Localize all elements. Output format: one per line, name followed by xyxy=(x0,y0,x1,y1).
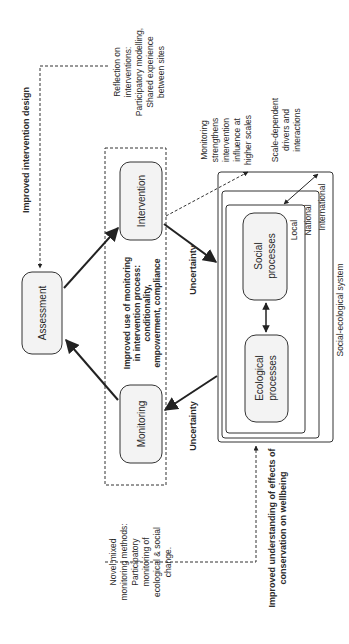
svg-text:monitoring methods:: monitoring methods: xyxy=(119,523,129,600)
svg-text:higher scales: higher scales xyxy=(243,115,253,165)
svg-text:empowerment, compliance: empowerment, compliance xyxy=(152,258,162,367)
monitoring-strengthens-text: Monitoring strengthens intervention infl… xyxy=(199,115,253,165)
svg-text:monitoring of: monitoring of xyxy=(141,537,151,587)
assessment-label: Assessment xyxy=(37,286,48,341)
svg-text:change.: change. xyxy=(163,547,173,577)
svg-text:strengthens: strengthens xyxy=(210,118,220,162)
svg-text:intervention: intervention xyxy=(221,118,231,162)
national-label: National xyxy=(303,204,313,235)
svg-text:Shared experience: Shared experience xyxy=(145,36,155,108)
svg-text:Participatory: Participatory xyxy=(130,538,140,586)
assessment-node: Assessment xyxy=(22,272,62,354)
system-label: Social-ecological system xyxy=(335,263,345,356)
ecological-processes-node: Ecological processes xyxy=(245,335,288,422)
svg-text:drivers and: drivers and xyxy=(281,109,291,151)
novel-methods-text: Novel mixed monitoring methods: Particip… xyxy=(108,523,173,600)
intervention-node: Intervention xyxy=(120,162,162,240)
reflection-text: Reflection on interventions: Participato… xyxy=(112,28,166,116)
international-label: International xyxy=(317,184,327,231)
social-processes-node: Social processes xyxy=(243,213,287,300)
arrow-monitoring-to-assessment xyxy=(66,340,118,400)
reflection-feedback-line xyxy=(40,66,108,268)
svg-text:processes: processes xyxy=(266,233,277,279)
svg-text:influence at: influence at xyxy=(232,118,242,162)
svg-text:interventions:: interventions: xyxy=(123,47,133,98)
svg-text:processes: processes xyxy=(267,355,278,401)
improved-monitoring-use-text: Improved use of monitoring in interventi… xyxy=(122,257,162,369)
conservation-monitoring-diagram: Assessment Intervention Monitoring Impro… xyxy=(0,0,349,644)
svg-text:interactions: interactions xyxy=(292,108,302,151)
improved-understanding-text: Improved understanding of effects of con… xyxy=(267,447,288,607)
svg-text:Monitoring: Monitoring xyxy=(199,120,209,160)
monitoring-label: Monitoring xyxy=(136,401,147,448)
intervention-label: Intervention xyxy=(136,175,147,227)
monitoring-node: Monitoring xyxy=(120,385,162,463)
svg-text:conservation on wellbeing: conservation on wellbeing xyxy=(278,471,288,584)
svg-text:Reflection on: Reflection on xyxy=(112,47,122,97)
svg-text:Scale-dependent: Scale-dependent xyxy=(270,97,280,162)
svg-text:conditionality,: conditionality, xyxy=(142,285,152,342)
svg-text:Participatory modelling,: Participatory modelling, xyxy=(134,28,144,116)
improved-intervention-design-label: Improved intervention design xyxy=(21,87,31,213)
svg-text:ecological & social: ecological & social xyxy=(152,527,162,597)
svg-text:Ecological: Ecological xyxy=(254,355,265,401)
svg-text:Novel mixed: Novel mixed xyxy=(108,538,118,585)
uncertainty-top-label: Uncertainty xyxy=(188,245,198,295)
svg-text:Improved understanding of effe: Improved understanding of effects of xyxy=(267,447,277,607)
svg-text:Improved use of monitoring: Improved use of monitoring xyxy=(122,257,132,369)
svg-text:between sites: between sites xyxy=(156,46,166,98)
uncertainty-bottom-label: Uncertainty xyxy=(188,401,198,451)
scale-dependent-text: Scale-dependent drivers and interactions xyxy=(270,97,302,162)
arrow-assessment-to-intervention xyxy=(64,228,118,288)
svg-text:in intervention process:: in intervention process: xyxy=(132,265,142,362)
local-label: Local xyxy=(289,220,299,240)
svg-text:Social: Social xyxy=(253,242,264,269)
